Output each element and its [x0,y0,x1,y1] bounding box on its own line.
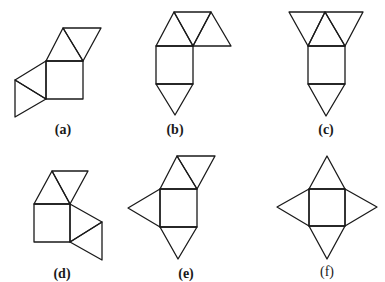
triangle-face-top [34,171,70,204]
triangle-face-top [309,156,345,189]
net-label-d: (d) [53,266,70,282]
square-face [308,46,345,84]
triangle-face-bottom [160,227,197,259]
triangle-face-top-right [63,28,101,61]
net-f: (f) [277,156,377,280]
square-face [46,61,83,99]
triangle-face-top-middle [174,12,211,46]
triangle-face-left [128,189,160,227]
square-face [160,189,197,227]
triangle-face-top [156,12,193,46]
square-face [309,189,345,226]
triangle-face-bottom [309,226,345,259]
triangle-face-right [70,204,102,242]
square-face [34,204,70,242]
triangle-face-right [193,12,231,46]
net-c: (c) [289,12,363,138]
triangle-face-top-right [177,156,215,189]
triangle-face-lower-right [70,222,102,260]
net-label-e: (e) [178,266,194,282]
triangle-face-left [15,61,46,99]
triangle-face-top-right [52,171,88,204]
pyramid-nets-diagram: (a) (b) (c) (d) (e) [0,0,385,282]
net-a: (a) [15,28,101,138]
net-e: (e) [128,156,215,282]
triangle-face-top [46,28,83,61]
net-label-f: (f) [320,264,334,280]
net-label-c: (c) [318,122,334,138]
triangle-face-right [345,189,377,226]
net-b: (b) [156,12,231,138]
triangle-face-bottom [308,84,345,116]
triangle-face-top [160,156,197,189]
net-label-a: (a) [55,122,72,138]
triangle-face-top [308,12,345,46]
triangle-face-lower-left [15,80,46,117]
net-label-b: (b) [166,122,183,138]
triangle-face-left [277,189,309,226]
triangle-face-top-left [289,12,325,46]
square-face [156,46,193,84]
triangle-face-bottom [156,84,193,115]
net-d: (d) [34,171,102,282]
triangle-face-top-right [325,12,363,46]
